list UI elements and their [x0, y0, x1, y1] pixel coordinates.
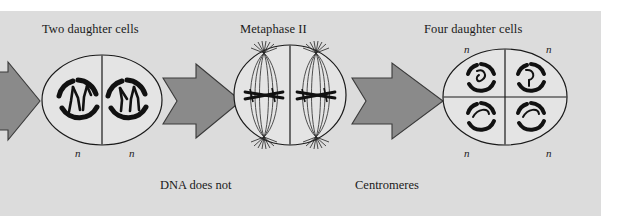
ploidy-marker-n-four-bottom-right: n	[546, 147, 552, 159]
four-daughter-cell-group	[443, 49, 567, 145]
caption-dna-does-not-replicate: DNA does not replicate	[160, 147, 232, 216]
caption-centromeres-divide: Centromeres divide	[355, 147, 419, 216]
metaphase-ii-cell-group	[234, 41, 346, 149]
ploidy-marker-n-four-top-right: n	[546, 43, 552, 55]
stage-label-metaphase-ii: Metaphase II	[240, 22, 307, 37]
stage-label-two-daughter-cells: Two daughter cells	[42, 22, 139, 37]
arrow-to-metaphase	[163, 64, 241, 138]
stage-label-four-daughter-cells: Four daughter cells	[424, 22, 522, 37]
two-daughter-cell-group	[42, 55, 162, 145]
arrow-to-four-cells	[352, 63, 443, 139]
ploidy-marker-n-left-cell-1: n	[75, 147, 81, 159]
ploidy-marker-n-four-bottom-left: n	[464, 147, 470, 159]
ploidy-marker-n-four-top-left: n	[464, 43, 470, 55]
caption-line-1: DNA does not	[160, 178, 232, 194]
ploidy-marker-n-left-cell-2: n	[129, 147, 135, 159]
caption-line-1: Centromeres	[355, 178, 419, 194]
figure-page: Two daughter cells Metaphase II Four dau…	[0, 0, 621, 216]
arrow-incoming	[0, 62, 40, 140]
